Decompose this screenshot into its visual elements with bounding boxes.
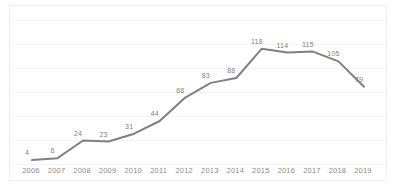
x-axis-tick: 2006 <box>22 166 40 175</box>
data-label: 23 <box>100 131 108 138</box>
x-axis-tick: 2015 <box>252 166 270 175</box>
x-axis-tick: 2019 <box>354 166 372 175</box>
x-axis-tick: 2017 <box>303 166 321 175</box>
data-label: 24 <box>74 130 82 137</box>
data-label: 114 <box>276 42 288 49</box>
x-axis-tick: 2011 <box>150 166 167 175</box>
data-label: 83 <box>202 72 210 79</box>
series-line <box>32 49 364 160</box>
x-axis-tick: 2010 <box>124 166 142 175</box>
line-chart: 462423314468838811811411510579 200620072… <box>0 0 397 194</box>
plot-area: 462423314468838811811411510579 <box>9 5 387 181</box>
data-label: 44 <box>151 110 159 117</box>
x-axis-tick: 2008 <box>73 166 91 175</box>
x-axis-tick: 2013 <box>201 166 219 175</box>
data-label: 4 <box>25 149 29 156</box>
x-axis-tick: 2016 <box>278 166 296 175</box>
data-label: 6 <box>50 147 54 154</box>
x-axis-tick: 2009 <box>99 166 117 175</box>
data-label: 68 <box>176 87 184 94</box>
data-label: 31 <box>125 123 133 130</box>
x-axis-tick: 2018 <box>329 166 347 175</box>
data-label: 79 <box>355 76 363 83</box>
data-label: 105 <box>327 50 339 57</box>
data-label: 88 <box>227 67 235 74</box>
data-label: 115 <box>302 41 314 48</box>
x-axis-labels: 2006200720082009201020112012201320142015… <box>9 166 387 182</box>
x-axis-tick: 2014 <box>227 166 245 175</box>
x-axis-tick: 2007 <box>48 166 66 175</box>
x-axis-tick: 2012 <box>175 166 193 175</box>
data-label: 118 <box>251 38 263 45</box>
series-line-svg <box>10 6 388 182</box>
